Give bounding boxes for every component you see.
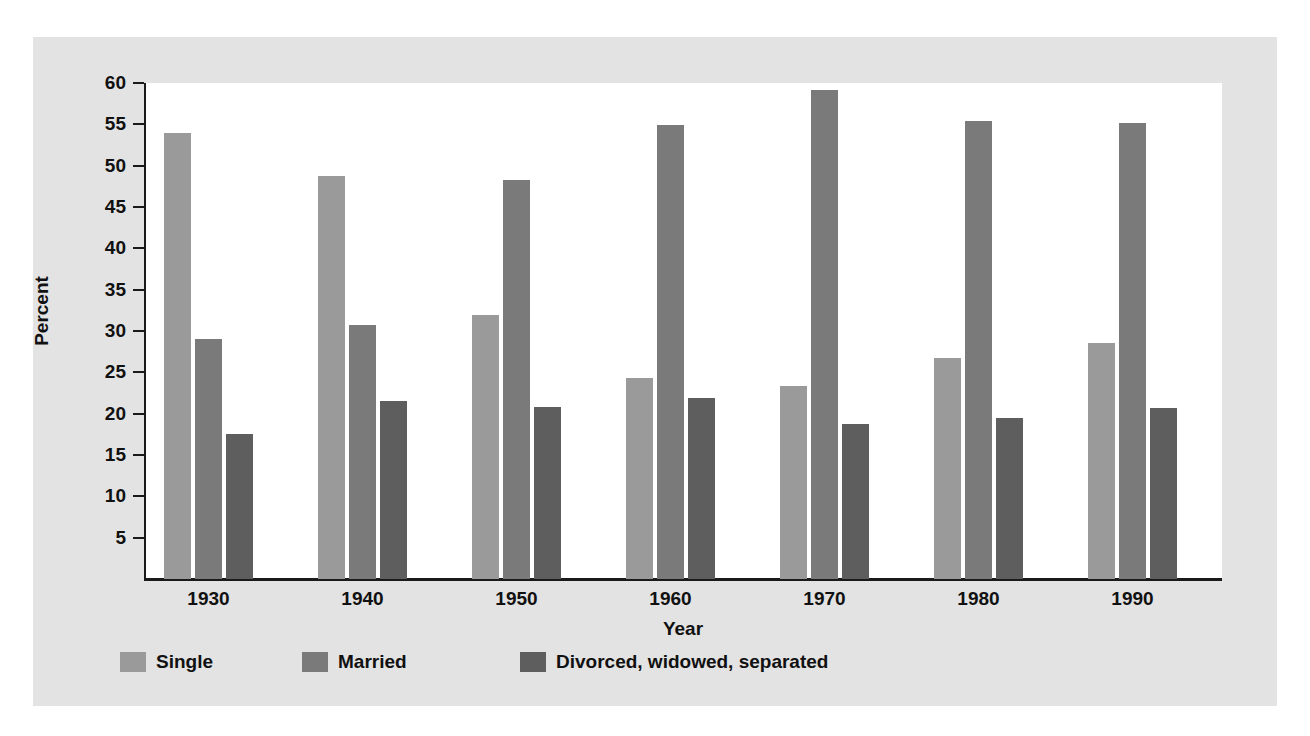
y-axis-tick xyxy=(133,413,144,415)
y-axis-tick xyxy=(133,371,144,373)
bar xyxy=(1119,123,1146,579)
y-axis-tick xyxy=(133,82,144,84)
legend-swatch-icon xyxy=(520,652,546,672)
bar xyxy=(226,434,253,579)
y-axis-tick-label-wrap: 55 xyxy=(76,114,126,134)
legend-swatch-icon xyxy=(120,652,146,672)
bar xyxy=(380,401,407,579)
y-axis-tick xyxy=(133,537,144,539)
bar xyxy=(503,180,530,579)
y-axis-tick-label: 25 xyxy=(80,362,126,381)
legend-swatch-icon xyxy=(302,652,328,672)
y-axis-tick-label-wrap: 20 xyxy=(76,404,126,424)
bar xyxy=(842,424,869,579)
y-axis-tick-label-wrap: 40 xyxy=(76,238,126,258)
y-axis-tick-label-wrap: 10 xyxy=(76,486,126,506)
y-axis-tick-label-wrap: 35 xyxy=(76,280,126,300)
y-axis-tick-label: 5 xyxy=(80,528,126,547)
bar xyxy=(472,315,499,579)
y-axis-tick-label: 35 xyxy=(80,280,126,299)
legend-item[interactable]: Single xyxy=(120,648,213,676)
bar xyxy=(195,339,222,579)
y-axis-tick-label: 40 xyxy=(80,238,126,257)
y-axis-tick xyxy=(133,123,144,125)
bar xyxy=(318,176,345,579)
y-axis-tick xyxy=(133,289,144,291)
y-axis-tick-label: 60 xyxy=(80,73,126,92)
x-axis-tick-label: 1980 xyxy=(919,588,1039,610)
bar xyxy=(688,398,715,579)
legend-item[interactable]: Divorced, widowed, separated xyxy=(520,648,828,676)
y-axis-tick-label-wrap: 5 xyxy=(76,528,126,548)
x-axis-tick-label: 1950 xyxy=(457,588,577,610)
bar xyxy=(657,125,684,579)
y-axis-tick-label: 10 xyxy=(80,486,126,505)
y-axis-tick xyxy=(133,247,144,249)
y-axis-tick xyxy=(133,206,144,208)
bar xyxy=(965,121,992,579)
y-axis-tick-label: 50 xyxy=(80,156,126,175)
x-axis-tick-label: 1930 xyxy=(149,588,269,610)
legend-label: Divorced, widowed, separated xyxy=(556,651,828,673)
x-axis-tick-label: 1970 xyxy=(765,588,885,610)
x-axis-tick-label: 1940 xyxy=(303,588,423,610)
bar xyxy=(164,133,191,579)
y-axis-tick-label: 30 xyxy=(80,321,126,340)
y-axis-tick-label: 55 xyxy=(80,114,126,133)
bar xyxy=(811,90,838,579)
x-axis-title: Year xyxy=(144,618,1222,640)
y-axis-tick-label-wrap: 25 xyxy=(76,362,126,382)
y-axis-tick xyxy=(133,330,144,332)
legend-label: Single xyxy=(156,651,213,673)
legend-label: Married xyxy=(338,651,407,673)
y-axis-tick xyxy=(133,165,144,167)
y-axis-tick xyxy=(133,495,144,497)
bar xyxy=(349,325,376,579)
legend-item[interactable]: Married xyxy=(302,648,407,676)
y-axis-tick-label-wrap: 60 xyxy=(76,73,126,93)
y-axis-tick xyxy=(133,454,144,456)
y-axis-title: Percent xyxy=(31,251,53,371)
bar xyxy=(626,378,653,579)
y-axis-tick-label-wrap: 45 xyxy=(76,197,126,217)
x-axis-tick-label: 1960 xyxy=(611,588,731,610)
bar xyxy=(1088,343,1115,579)
bar xyxy=(934,358,961,579)
y-axis-tick-label: 45 xyxy=(80,197,126,216)
y-axis-tick-label: 20 xyxy=(80,404,126,423)
bar xyxy=(1150,408,1177,579)
y-axis-tick-label-wrap: 30 xyxy=(76,321,126,341)
bar xyxy=(996,418,1023,579)
bars-layer xyxy=(144,83,1222,579)
y-axis-tick-label-wrap: 50 xyxy=(76,156,126,176)
y-axis-tick-label-wrap: 15 xyxy=(76,445,126,465)
y-axis-tick-label: 15 xyxy=(80,445,126,464)
bar xyxy=(780,386,807,579)
x-axis-tick-label: 1990 xyxy=(1073,588,1193,610)
bar xyxy=(534,407,561,579)
